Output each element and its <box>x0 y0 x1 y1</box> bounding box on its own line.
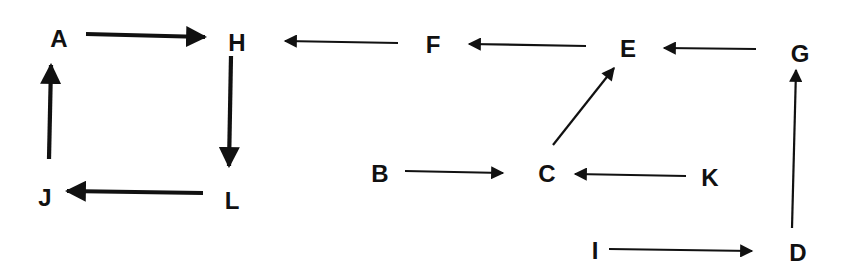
arrow-g-to-e <box>664 48 756 49</box>
node-k: K <box>701 164 719 191</box>
arrow-l-to-j <box>67 191 203 193</box>
arrow-c-to-e <box>553 68 614 145</box>
node-h: H <box>228 29 245 56</box>
directed-graph-diagram: AHFEGJLBCKID <box>0 0 846 272</box>
arrow-k-to-c <box>575 174 686 176</box>
arrow-f-to-h <box>285 41 398 43</box>
arrow-d-to-g <box>792 70 796 228</box>
arrow-j-to-a <box>49 65 51 159</box>
node-e: E <box>620 35 636 62</box>
arrow-h-to-l <box>229 56 231 166</box>
node-i: I <box>592 237 599 264</box>
arrow-b-to-c <box>405 171 503 173</box>
edges-layer <box>49 34 796 251</box>
node-d: D <box>789 239 806 266</box>
node-a: A <box>50 25 67 52</box>
node-f: F <box>426 31 441 58</box>
nodes-layer: AHFEGJLBCKID <box>38 25 809 266</box>
node-g: G <box>791 40 810 67</box>
node-b: B <box>371 160 388 187</box>
node-c: C <box>538 160 555 187</box>
node-j: J <box>38 184 51 211</box>
arrow-e-to-f <box>469 44 586 46</box>
node-l: L <box>225 187 240 214</box>
arrow-a-to-h <box>86 34 205 37</box>
arrow-i-to-d <box>609 249 752 251</box>
